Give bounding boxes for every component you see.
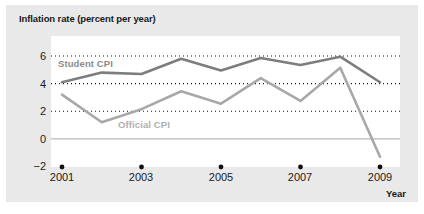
x-tick-dot-2005 xyxy=(219,165,224,170)
chart-figure: Inflation rate (percent per year) 6 4 2 … xyxy=(0,0,424,214)
x-tick-dot-markers xyxy=(60,165,383,170)
x-tick-dot-2007 xyxy=(298,165,303,170)
series-label-student-cpi: Student CPI xyxy=(58,58,113,69)
chart-plot-svg xyxy=(0,0,424,214)
series-label-official-cpi: Official CPI xyxy=(118,119,170,130)
series-lines xyxy=(62,57,380,157)
x-tick-dot-2003 xyxy=(139,165,144,170)
x-tick-dot-2001 xyxy=(60,165,65,170)
x-tick-dot-2009 xyxy=(378,165,383,170)
series-line-official-cpi xyxy=(62,68,380,157)
